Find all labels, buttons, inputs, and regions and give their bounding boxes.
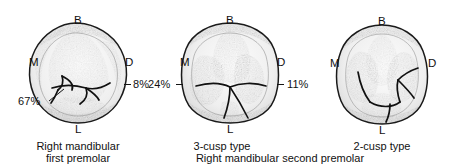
tooth-3-label-buccal: B	[378, 16, 386, 27]
tooth-3-label-mesial: M	[330, 58, 340, 69]
tooth-3-label-lingual: L	[379, 125, 386, 136]
tooth-2-annotation-11-percent: 11%	[287, 79, 309, 90]
tooth-1-label-buccal: B	[74, 15, 82, 26]
tooth-2-label-lingual: L	[227, 124, 234, 135]
tooth-3-illustration	[330, 18, 440, 136]
tooth-2-caption: 3-cusp type	[162, 140, 282, 153]
tooth-1-annotation-67-percent: 67%	[18, 96, 40, 107]
tooth-1-annotation-8-percent: 8%	[133, 79, 149, 90]
tooth-anatomy-figure: B M D L 67% 8% B M D L 24% 11% B M D L R…	[0, 0, 460, 168]
leader-dash-11-percent	[277, 84, 284, 85]
tooth-2-label-distal: D	[277, 57, 285, 68]
shared-caption-second-premolar: Right mandibular second premolar	[150, 152, 410, 165]
tooth-1-label-distal: D	[125, 57, 133, 68]
tooth-2-label-mesial: M	[180, 57, 190, 68]
tooth-1-illustration	[20, 15, 140, 135]
tooth-1-caption-line-2: first premolar	[14, 152, 142, 165]
tooth-1-label-mesial: M	[29, 57, 39, 68]
leader-dash-24-percent	[176, 84, 183, 85]
tooth-1-caption-line-1: Right mandibular	[14, 140, 142, 153]
tooth-2-annotation-24-percent: 24%	[148, 79, 170, 90]
leader-dash-8-percent	[124, 84, 131, 85]
tooth-3-caption: 2-cusp type	[330, 140, 434, 153]
tooth-2-label-buccal: B	[226, 15, 234, 26]
tooth-1-label-lingual: L	[75, 124, 82, 135]
tooth-2-illustration	[175, 15, 290, 135]
tooth-3-label-distal: D	[428, 58, 436, 69]
